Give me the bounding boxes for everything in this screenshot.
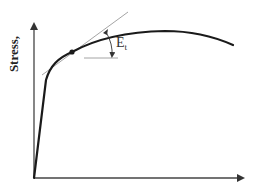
y-axis-label: Stress, [4,24,24,84]
tangent-modulus-subscript: t [125,42,128,52]
stress-strain-curve [34,31,233,178]
diagram-canvas [0,0,259,189]
angle-arrow [106,32,112,56]
tangent-modulus-symbol: E [116,35,125,50]
tangent-modulus-label: Et [116,35,127,52]
tangent-point-dot [69,49,74,54]
